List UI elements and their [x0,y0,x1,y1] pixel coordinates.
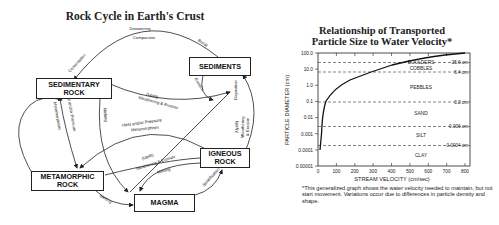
x-tick-label: 500 [406,169,414,174]
label-erosion-3: & Erosion [245,117,250,136]
x-axis-ticks: 0 100 200 300 400 500 600 700 800 [317,53,470,174]
metamorphic-rock-box: METAMORPHIC ROCK [31,171,104,191]
sediments-box: SEDIMENTS [189,57,251,76]
x-tick-label: 800 [461,169,469,174]
y-tick-label: 0.0001 [298,148,313,153]
ref-label-25-6: 25.6 cm [452,60,469,65]
x-tick-label: 0 [317,169,320,174]
x-tick-label: 600 [424,169,432,174]
rock-cycle-arrows: Dewatering Compaction Cementation Burial… [0,0,265,225]
x-tick-label: 700 [443,169,451,174]
particle-size-chart: Relationship of Transported Particle Siz… [265,0,499,225]
x-tick-label: 200 [351,169,359,174]
region-clay: CLAY [415,153,428,158]
label-solidification: Solidification [201,166,221,187]
igneous-rock-box: IGNEOUS ROCK [200,148,250,168]
igneous-rock-line2: ROCK [214,158,235,166]
label-weathering-erosion-1: Weathering & Erosion [138,95,179,111]
sedimentary-rock-line2: ROCK [63,89,84,97]
y-axis-ticks: 100.0 10.0 1.0 0.1 0.01 0.001 0.0001 0.0… [296,51,318,169]
chart-footnote: *This generalized graph shows the water … [302,185,499,204]
magma-label: MAGMA [151,199,179,207]
label-erosion: Erosion [194,77,206,92]
x-tick-label: 400 [387,169,395,174]
y-tick-label: 0.001 [301,132,313,137]
label-melting-2: Melting [156,166,171,174]
x-tick-label: 100 [332,169,340,174]
magma-box: MAGMA [134,194,195,212]
region-labels: BOULDERS COBBLES PEBBLES SAND SILT CLAY [408,60,434,158]
y-tick-label: 0.00001 [296,164,314,169]
metamorphic-rock-line2: ROCK [57,181,78,189]
y-tick-label: 1.0 [306,83,313,88]
region-pebbles: PEBBLES [410,85,432,90]
y-tick-label: 100.0 [301,51,313,56]
sedimentary-rock-box: SEDIMENTARY ROCK [36,78,112,99]
label-compaction: Compaction [133,35,156,40]
label-uplift-3: (Uplift) [234,120,239,133]
ref-label-0-2: 0.2 cm [454,100,468,105]
region-sand: SAND [414,111,428,116]
y-tick-label: 0.1 [306,99,313,104]
sediments-label: SEDIMENTS [199,63,241,71]
label-dewatering: Dewatering [129,26,151,31]
region-silt: SILT [416,133,426,138]
velocity-curve [320,53,465,150]
y-tick-label: 10.0 [304,67,314,72]
rock-cycle-diagram: Rock Cycle in Earth's Crust [0,0,265,225]
ref-label-0-0004: 0.0004 cm [447,143,469,148]
ref-label-6-4: 6.4 cm [454,70,468,75]
plot-frame [318,53,470,166]
y-axis-label: PARTICLE DIAMETER (cm) [284,75,290,145]
label-melting-3: Melting [99,193,114,204]
label-melting-1: Melting [102,108,108,123]
label-deposition: Deposition [233,79,238,99]
label-uplift-2: (Uplift) [141,152,155,161]
reference-labels: 25.6 cm 6.4 cm 0.2 cm 0.006 cm 0.0004 cm [447,60,469,148]
x-tick-label: 300 [369,169,377,174]
ref-label-0-006: 0.006 cm [449,124,468,129]
reference-lines [318,63,470,146]
label-cementation: Cementation [67,52,87,73]
x-axis-label: STREAM VELOCITY (cm/sec) [354,176,430,182]
region-cobbles: COBBLES [410,66,433,71]
y-tick-label: 0.01 [304,115,314,120]
